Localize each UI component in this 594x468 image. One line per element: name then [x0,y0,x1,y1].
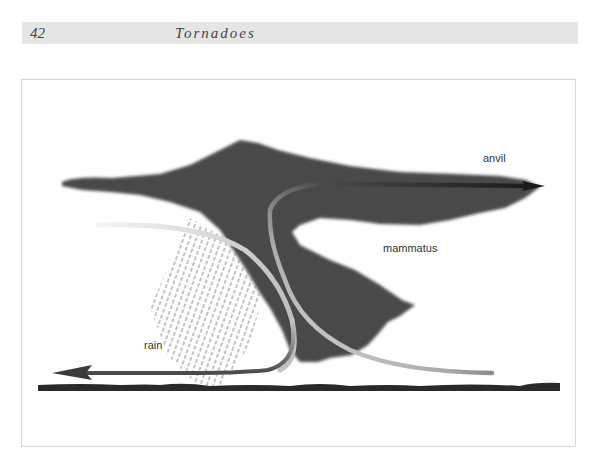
outflow-arrowhead [52,365,92,380]
cloud-shape [62,140,540,362]
thunderstorm-diagram [0,0,594,468]
anvil-label: anvil [483,152,506,164]
mammatus-label: mammatus [383,242,437,254]
rain-label: rain [144,339,162,351]
ground-line [38,383,560,391]
